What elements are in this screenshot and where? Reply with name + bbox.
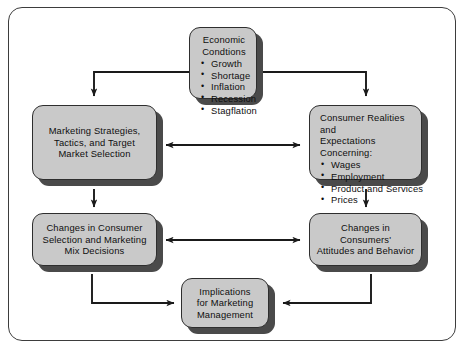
list-item: Recession	[200, 93, 248, 105]
node-implications-label: Implications for Marketing Management	[191, 286, 260, 321]
list-item: Product and Services	[320, 183, 413, 195]
list-item: Prices	[320, 194, 413, 206]
list-item: Inflation	[200, 81, 248, 93]
list-item: Growth	[200, 58, 248, 70]
node-changes-consumer-attitudes-label: Changes in Consumers' Attitudes and Beha…	[310, 222, 421, 257]
diagram-canvas: Economic Condtions Growth Shortage Infla…	[0, 0, 466, 350]
node-economic-bullets: Growth Shortage Inflation Recession Stag…	[200, 58, 248, 116]
node-marketing-strategies-label: Marketing Strategies, Tactics, and Targe…	[43, 125, 147, 160]
node-economic-title: Economic Condtions	[200, 34, 248, 57]
node-changes-consumer-selection-label: Changes in Consumer Selection and Market…	[36, 222, 152, 257]
list-item: Employment	[320, 171, 413, 183]
list-item: Shortage	[200, 70, 248, 82]
node-consumer-realities-title: Consumer Realities and Expectations Conc…	[320, 112, 413, 158]
node-consumer-realities[interactable]: Consumer Realities and Expectations Conc…	[309, 105, 422, 180]
node-marketing-strategies[interactable]: Marketing Strategies, Tactics, and Targe…	[32, 105, 157, 180]
list-item: Stagflation	[200, 105, 248, 117]
list-item: Wages	[320, 159, 413, 171]
node-changes-consumer-attitudes[interactable]: Changes in Consumers' Attitudes and Beha…	[309, 213, 422, 266]
node-consumer-realities-bullets: Wages Employment Product and Services Pr…	[320, 159, 413, 205]
node-economic-conditions[interactable]: Economic Condtions Growth Shortage Infla…	[189, 27, 257, 99]
node-changes-consumer-selection[interactable]: Changes in Consumer Selection and Market…	[32, 213, 157, 266]
node-implications-marketing-management[interactable]: Implications for Marketing Management	[181, 278, 269, 328]
